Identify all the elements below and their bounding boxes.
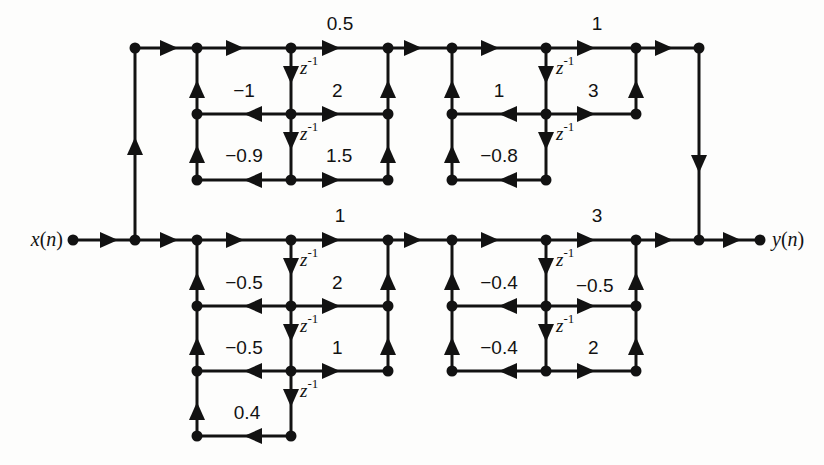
arrow-s2-left-up-2 — [444, 145, 460, 163]
node-output-terminal — [755, 235, 766, 246]
label-s1-k1: −1 — [233, 80, 255, 101]
node-top-rail-start — [130, 43, 141, 54]
arrow-s4-mid-left — [499, 298, 517, 314]
node-s3-r3c — [286, 431, 297, 442]
label-s1-k2: −0.9 — [225, 145, 263, 166]
arrow-s4-top-1 — [481, 232, 499, 248]
arrow-s4-mid-right — [577, 298, 595, 314]
node-s1-bc — [286, 175, 297, 186]
node-s3-r0l — [192, 235, 203, 246]
node-s1-tr — [383, 43, 394, 54]
z-exp: -1 — [563, 311, 574, 326]
label-s4-k2: −0.4 — [480, 337, 518, 358]
label-s2-v1: 3 — [588, 80, 599, 101]
arrow-s1-left-up-2 — [189, 145, 205, 163]
arrow-s3-mid1-left — [244, 298, 262, 314]
z-exp: -1 — [307, 53, 318, 68]
arrow-s1-top-2 — [322, 40, 340, 56]
node-s2-bl — [447, 175, 458, 186]
node-s1-mr — [383, 109, 394, 120]
arrow-s2-top-2 — [577, 40, 595, 56]
arrow-s3-mid1-right — [322, 298, 340, 314]
routing-wires — [73, 48, 760, 240]
arrow-s3-mid2-right — [322, 363, 340, 379]
arrow-s1-delay-1-down — [283, 66, 299, 84]
arrow-s3-left-up-1 — [189, 272, 205, 290]
arrow-s2-left-up-1 — [444, 80, 460, 98]
arrow-s4-bot-right — [577, 363, 595, 379]
arrow-s4-left-up-2 — [444, 337, 460, 355]
label-s3-delay-1: z-1 — [299, 245, 318, 270]
arrow-s1-to-s2 — [404, 40, 422, 56]
input-label: x(n) — [30, 228, 63, 251]
z-exp: -1 — [307, 311, 318, 326]
label-s3-k3: 0.4 — [234, 402, 261, 423]
arrow-top-entry-right — [160, 40, 178, 56]
arrow-s4-delay-1-down — [538, 258, 554, 276]
arrow-s3-bot-left — [244, 428, 262, 444]
node-s3-r3l — [192, 431, 203, 442]
node-input-branch — [130, 235, 141, 246]
node-input-terminal — [68, 235, 79, 246]
node-s4-bc — [541, 366, 552, 377]
output-label: y(n) — [770, 228, 804, 251]
node-s2-mr — [631, 109, 642, 120]
node-s4-bl — [447, 366, 458, 377]
arrow-s4-right-up-2 — [628, 337, 644, 355]
node-s3-r2r — [383, 366, 394, 377]
node-s1-ml — [192, 109, 203, 120]
z-exp: -1 — [307, 376, 318, 391]
node-s3-r2l — [192, 366, 203, 377]
node-s1-tc — [286, 43, 297, 54]
node-s3-r0c — [286, 235, 297, 246]
arrow-s3-mid2-left — [244, 363, 262, 379]
label-top-gain-s3: 1 — [335, 205, 346, 226]
node-s4-mr — [631, 301, 642, 312]
node-s4-tr — [631, 235, 642, 246]
arrow-s3-right-up-2 — [380, 337, 396, 355]
label-s4-v1: −0.5 — [576, 275, 614, 296]
label-s2-delay-1: z-1 — [555, 53, 574, 78]
arrow-s4-left-up-1 — [444, 272, 460, 290]
node-s4-br — [631, 366, 642, 377]
label-top-gain-s2: 1 — [592, 13, 603, 34]
arrow-s1-right-up-2 — [380, 145, 396, 163]
label-s1-v2: 1.5 — [326, 145, 352, 166]
node-s2-tc — [541, 43, 552, 54]
arrow-merge-right — [655, 232, 673, 248]
arrow-s2-top-1 — [481, 40, 499, 56]
label-top-gain-s1: 0.5 — [327, 13, 353, 34]
arrow-s3-left-up-3 — [189, 402, 205, 420]
node-s3-r1c — [286, 301, 297, 312]
label-s2-k1: 1 — [494, 80, 505, 101]
arrow-s4-right-up-1 — [628, 272, 644, 290]
label-s3-k2: −0.5 — [225, 337, 263, 358]
z-exp: -1 — [563, 245, 574, 260]
arrow-s2-delay-2-down — [538, 132, 554, 150]
arrow-s4-delay-2-down — [538, 324, 554, 342]
node-s2-bc — [541, 175, 552, 186]
node-s4-tl — [447, 235, 458, 246]
label-s4-delay-1: z-1 — [555, 245, 574, 270]
arrow-output-right — [723, 232, 741, 248]
label-s1-v1: 2 — [332, 80, 343, 101]
label-s1-delay-2: z-1 — [299, 119, 318, 144]
arrow-s1-delay-2-down — [283, 132, 299, 150]
signal-flow-graph-figure: x(n) y(n) 0.5 1 1 3 −1 −0.9 2 1.5 1 −0.8… — [0, 0, 824, 465]
arrow-s2-delay-1-down — [538, 66, 554, 84]
arrow-s3-delay-1-down — [283, 258, 299, 276]
label-s1-delay-1: z-1 — [299, 53, 318, 78]
node-top-rail-end — [694, 43, 705, 54]
label-s4-k1: −0.4 — [480, 272, 518, 293]
arrow-s3-top-2 — [322, 232, 340, 248]
label-s3-delay-2: z-1 — [299, 311, 318, 336]
node-s2-ml — [447, 109, 458, 120]
arrow-s4-bot-left — [499, 363, 517, 379]
node-s2-mc — [541, 109, 552, 120]
node-s1-mc — [286, 109, 297, 120]
arrow-s3-left-up-2 — [189, 337, 205, 355]
arrow-s3-to-s4 — [404, 232, 422, 248]
z-exp: -1 — [563, 119, 574, 134]
node-s1-br — [383, 175, 394, 186]
arrow-s2-right-up-1 — [628, 80, 644, 98]
